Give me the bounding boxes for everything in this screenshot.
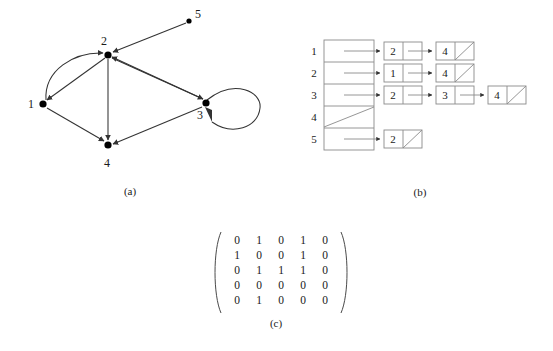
- matrix-cell-3-3: 1: [278, 263, 284, 278]
- graph-diagram: 1 2 3 4 5: [0, 0, 290, 210]
- matrix-cell-1-5: 0: [322, 233, 328, 248]
- matrix-cell-1-2: 1: [256, 233, 262, 248]
- graph-node-3[interactable]: [202, 99, 209, 106]
- matrix-cell-5-5: 0: [322, 293, 328, 308]
- matrix-cell-4-3: 0: [278, 278, 284, 293]
- edge-3-self-loop: [207, 89, 260, 129]
- graph-node-label-4: 4: [104, 156, 110, 170]
- matrix-cell-1-1: 0: [234, 233, 240, 248]
- edge-1-to-4: [47, 108, 104, 141]
- matrix-cell-1-3: 0: [278, 233, 284, 248]
- graph-node-label-3: 3: [197, 108, 203, 122]
- list-null-slash-row-1: [455, 42, 474, 60]
- graph-node-2[interactable]: [104, 51, 111, 58]
- matrix-cell-5-3: 0: [278, 293, 284, 308]
- matrix-cell-5-2: 1: [256, 293, 262, 308]
- graph-node-label-2: 2: [101, 34, 107, 48]
- matrix-cell-5-4: 0: [300, 293, 306, 308]
- figure-root: 1 2 3 4 5 1 2 3 4 5: [0, 0, 553, 351]
- matrix-grid: 0101010010011100000001000: [222, 230, 340, 315]
- matrix-wrapper: 0101010010011100000001000: [210, 230, 352, 315]
- graph-panel: 1 2 3 4 5: [0, 0, 290, 210]
- caption-b: (b): [400, 186, 440, 198]
- list-row-index-2: 2: [311, 67, 317, 79]
- matrix-cell-3-2: 1: [256, 263, 262, 278]
- list-node-value-row-5-0: 2: [390, 133, 396, 145]
- matrix-cell-2-3: 0: [278, 248, 284, 263]
- matrix-cell-2-2: 0: [256, 248, 262, 263]
- graph-node-5[interactable]: [186, 18, 191, 23]
- matrix-cell-5-1: 0: [234, 293, 240, 308]
- list-node-value-row-3-2: 4: [494, 89, 500, 101]
- matrix-cell-3-1: 0: [234, 263, 240, 278]
- matrix-cell-4-2: 0: [256, 278, 262, 293]
- adjacency-matrix-panel: 0101010010011100000001000: [196, 222, 366, 322]
- list-row-index-5: 5: [311, 133, 317, 145]
- graph-node-label-1: 1: [28, 97, 34, 111]
- list-header-null-slash-row-4: [324, 107, 374, 127]
- caption-a: (a): [110, 185, 150, 197]
- edge-3-self-loop-arrowhead: [205, 107, 212, 122]
- matrix-cell-1-4: 1: [300, 233, 306, 248]
- adjacency-lists-panel: 1 2 3 4 5 2 4 1 4: [300, 28, 550, 178]
- graph-node-4[interactable]: [104, 141, 111, 148]
- matrix-cell-3-4: 1: [300, 263, 306, 278]
- matrix-cell-4-1: 0: [234, 278, 240, 293]
- graph-node-label-5: 5: [195, 7, 201, 21]
- list-null-slash-row-2: [455, 64, 474, 82]
- edge-3-to-2: [112, 57, 203, 99]
- edge-3-to-4: [113, 107, 202, 144]
- matrix-cell-4-4: 0: [300, 278, 306, 293]
- matrix-cell-4-5: 0: [322, 278, 328, 293]
- list-node-value-row-2-0: 1: [390, 67, 396, 79]
- list-node-value-row-1-1: 4: [442, 45, 448, 57]
- list-node-value-row-3-1: 3: [442, 89, 448, 101]
- matrix-cell-3-5: 0: [322, 263, 328, 278]
- matrix-right-paren: [340, 230, 352, 315]
- matrix-cell-2-4: 1: [300, 248, 306, 263]
- list-null-slash-row-5: [403, 130, 422, 148]
- list-null-slash-row-3: [507, 86, 526, 104]
- edge-1-to-2: [46, 53, 103, 100]
- edge-2-to-1: [47, 58, 105, 100]
- list-node-value-row-3-0: 2: [390, 89, 396, 101]
- list-row-index-3: 3: [311, 89, 317, 101]
- adjacency-lists-diagram: 1 2 3 4 5 2 4 1 4: [300, 28, 550, 178]
- list-row-index-4: 4: [311, 111, 317, 123]
- list-node-value-row-2-1: 4: [442, 67, 448, 79]
- list-row-index-1: 1: [311, 45, 317, 57]
- edge-5-to-2: [113, 23, 186, 52]
- graph-node-1[interactable]: [39, 100, 46, 107]
- matrix-left-paren: [210, 230, 222, 315]
- caption-c: (c): [256, 317, 296, 329]
- list-node-value-row-1-0: 2: [390, 45, 396, 57]
- matrix-cell-2-5: 0: [322, 248, 328, 263]
- matrix-cell-2-1: 1: [234, 248, 240, 263]
